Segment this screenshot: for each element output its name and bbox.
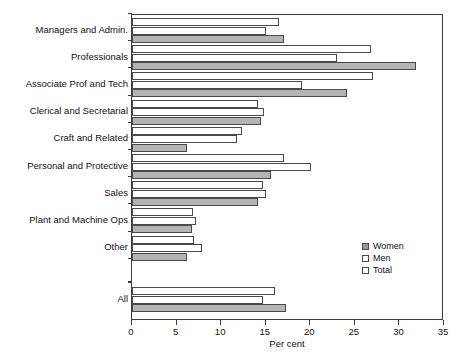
y-axis-label-column: Managers and Admin.ProfessionalsAssociat…: [0, 0, 128, 363]
y-axis-tick: [128, 40, 132, 41]
y-axis-label: Clerical and Secretarial: [3, 106, 128, 116]
bar-men: [132, 27, 266, 35]
y-axis-label: Associate Prof and Tech: [3, 79, 128, 89]
legend-item-women: Women: [362, 240, 404, 252]
bar-men: [132, 135, 237, 143]
x-axis-tick: [265, 320, 266, 325]
y-axis-label: Managers and Admin.: [3, 25, 128, 35]
y-axis-tick: [128, 176, 132, 177]
bar-total: [132, 72, 373, 80]
bar-group: [132, 127, 442, 152]
x-axis-tick-label: 35: [438, 326, 449, 337]
legend-item-men: Men: [362, 252, 404, 264]
x-axis-tick-label: 20: [304, 326, 315, 337]
bar-men: [132, 81, 302, 89]
y-axis-label: Craft and Related: [3, 133, 128, 143]
bar-women: [132, 225, 192, 233]
legend-label: Total: [373, 264, 392, 276]
bar-women: [132, 304, 286, 312]
bar-total: [132, 45, 371, 53]
y-axis-tick: [128, 95, 132, 96]
y-axis-label: Personal and Protective: [3, 161, 128, 171]
chart-legend: WomenMenTotal: [362, 240, 404, 276]
bar-women: [132, 89, 347, 97]
bar-total: [132, 287, 275, 295]
y-axis-tick: [128, 122, 132, 123]
bar-men: [132, 108, 264, 116]
bar-women: [132, 144, 187, 152]
bar-men: [132, 217, 196, 225]
bar-group: [132, 100, 442, 125]
bar-women: [132, 171, 271, 179]
x-axis-tick: [354, 320, 355, 325]
bar-total: [132, 18, 279, 26]
x-axis-tick-label: 10: [215, 326, 226, 337]
bar-men: [132, 296, 263, 304]
y-axis-tick: [128, 149, 132, 150]
bar-group: [132, 181, 442, 206]
bar-group: [132, 18, 442, 43]
x-axis-tick: [443, 320, 444, 325]
bar-total: [132, 127, 242, 135]
y-axis-tick: [128, 203, 132, 204]
bar-women: [132, 198, 258, 206]
x-axis-tick-label: 25: [349, 326, 360, 337]
bar-men: [132, 54, 337, 62]
bar-group: [132, 154, 442, 179]
legend-item-total: Total: [362, 264, 404, 276]
y-axis-tick: [128, 282, 132, 283]
bar-total: [132, 236, 194, 244]
x-axis-tick-label: 5: [173, 326, 178, 337]
legend-swatch-total-icon: [362, 267, 369, 274]
legend-label: Women: [373, 240, 404, 252]
y-axis-tick: [128, 281, 132, 282]
bar-total: [132, 181, 263, 189]
bar-total: [132, 154, 284, 162]
bar-chart: Managers and Admin.ProfessionalsAssociat…: [0, 0, 464, 363]
x-axis-tick: [398, 320, 399, 325]
legend-label: Men: [373, 252, 391, 264]
x-axis-title: Per cent: [131, 338, 443, 349]
bar-group: [132, 287, 442, 312]
x-axis-tick-label: 15: [259, 326, 270, 337]
y-axis-label: Professionals: [3, 52, 128, 62]
bar-women: [132, 62, 416, 70]
y-axis-tick: [128, 231, 132, 232]
y-axis-label: Other: [3, 242, 128, 252]
bar-women: [132, 35, 284, 43]
x-axis-tick: [309, 320, 310, 325]
bar-men: [132, 163, 311, 171]
bar-men: [132, 190, 266, 198]
x-axis-tick: [220, 320, 221, 325]
bar-total: [132, 100, 258, 108]
y-axis-label: All: [3, 294, 128, 304]
bar-women: [132, 253, 187, 261]
y-axis-label: Plant and Machine Ops: [3, 215, 128, 225]
legend-swatch-women-icon: [362, 243, 369, 250]
legend-swatch-men-icon: [362, 255, 369, 262]
y-axis-tick: [128, 13, 132, 14]
bar-total: [132, 208, 193, 216]
bar-group: [132, 45, 442, 70]
y-axis-tick: [128, 258, 132, 259]
bar-women: [132, 117, 261, 125]
y-axis-label: Sales: [3, 188, 128, 198]
x-axis-tick-label: 30: [393, 326, 404, 337]
bar-group: [132, 72, 442, 97]
y-axis-tick: [128, 67, 132, 68]
x-axis-tick: [176, 320, 177, 325]
x-axis-tick: [131, 320, 132, 325]
bar-men: [132, 244, 202, 252]
x-axis-tick-label: 0: [128, 326, 133, 337]
bar-group: [132, 208, 442, 233]
